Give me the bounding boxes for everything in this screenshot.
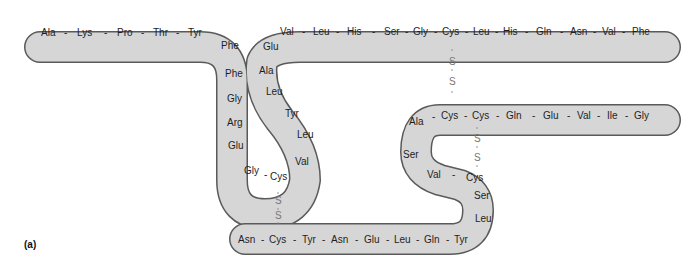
residue: Ala	[41, 27, 56, 38]
peptide-bond: -	[264, 169, 267, 180]
peptide-bond: -	[104, 27, 107, 38]
svg-text:S: S	[449, 56, 456, 67]
residue: Tyr	[454, 234, 469, 245]
peptide-bond: -	[597, 110, 600, 121]
residue: Tyr	[302, 234, 317, 245]
peptide-diagram: Ala - Lys - Pro - Thr - Tyr Phe Phe Gly …	[0, 0, 682, 269]
residue: Ala	[259, 65, 274, 76]
residue: Cys	[441, 110, 458, 121]
residue: Pro	[117, 27, 133, 38]
residue: Glu	[228, 140, 244, 151]
residue: Phe	[632, 26, 650, 37]
residue: Gly	[413, 26, 428, 37]
residue: Phe	[221, 40, 239, 51]
residue: Asn	[570, 26, 587, 37]
residue: Cys	[472, 110, 489, 121]
residue: Ile	[607, 110, 618, 121]
residue: Cys	[269, 234, 286, 245]
svg-text:S: S	[275, 195, 282, 206]
peptide-bond: -	[302, 26, 305, 37]
peptide-bond: -	[434, 26, 437, 37]
peptide-bond: -	[625, 110, 628, 121]
residue: Glu	[543, 110, 559, 121]
peptide-bond: -	[416, 234, 419, 245]
residue: Gly	[634, 110, 649, 121]
residue: Asn	[238, 234, 255, 245]
figure-label: (a)	[24, 239, 36, 250]
svg-text:S: S	[474, 152, 481, 163]
residue: Val	[280, 26, 294, 37]
residue: Leu	[473, 26, 490, 37]
residue: Asn	[331, 234, 348, 245]
peptide-bond: -	[560, 26, 563, 37]
peptide-bond: -	[322, 234, 325, 245]
residue: Gly	[227, 93, 242, 104]
residue: Tyr	[188, 27, 203, 38]
residue: Ser	[384, 26, 400, 37]
residue: Val	[602, 26, 616, 37]
residue: Ser	[403, 149, 419, 160]
residue: Val	[427, 169, 441, 180]
peptide-bond: -	[465, 26, 468, 37]
residue: Phe	[225, 68, 243, 79]
residue: Glu	[364, 234, 380, 245]
residue: Lys	[77, 27, 92, 38]
residue: Leu	[297, 129, 314, 140]
svg-text:S: S	[275, 210, 282, 221]
peptide-bond: -	[261, 234, 264, 245]
residue: Cys	[270, 171, 287, 182]
peptide-bond: -	[293, 234, 296, 245]
peptide-bond: -	[176, 27, 179, 38]
peptide-bond: -	[593, 26, 596, 37]
peptide-bond: -	[336, 26, 339, 37]
peptide-bond: -	[532, 110, 535, 121]
residue: Gln	[506, 110, 522, 121]
peptide-bond: -	[372, 26, 375, 37]
residue: Gly	[244, 165, 259, 176]
peptide-bond: -	[622, 26, 625, 37]
residue: Cys	[442, 26, 459, 37]
residue: Tyr	[285, 108, 300, 119]
svg-text:S: S	[449, 76, 456, 87]
peptide-bond: -	[141, 27, 144, 38]
residue: Gln	[424, 234, 440, 245]
peptide-bond: -	[525, 26, 528, 37]
peptide-bond: -	[446, 234, 449, 245]
residue: Val	[577, 110, 591, 121]
peptide-bond: -	[452, 169, 455, 180]
residue: Leu	[475, 213, 492, 224]
residue: Ala	[409, 116, 424, 127]
peptide-bond: -	[355, 234, 358, 245]
peptide-bond: -	[567, 110, 570, 121]
peptide-bond: -	[64, 27, 67, 38]
residue: Gln	[536, 26, 552, 37]
residue: Leu	[394, 234, 411, 245]
residue: His	[347, 26, 361, 37]
peptide-bond: -	[405, 26, 408, 37]
residue: Arg	[227, 117, 243, 128]
residue: Leu	[266, 86, 283, 97]
peptide-bond: -	[496, 110, 499, 121]
svg-text:S: S	[474, 133, 481, 144]
peptide-bond: -	[432, 111, 435, 122]
residue: Val	[295, 156, 309, 167]
residue: Leu	[313, 26, 330, 37]
disulfide-bond-3: S S	[474, 127, 481, 167]
peptide-bond: -	[495, 26, 498, 37]
residue: His	[503, 26, 517, 37]
peptide-bond: -	[464, 110, 467, 121]
residue: Thr	[153, 27, 169, 38]
residue: Ser	[474, 190, 490, 201]
disulfide-bond-1: S S	[449, 49, 456, 93]
residue: Glu	[263, 41, 279, 52]
peptide-bond: -	[386, 234, 389, 245]
residue: Cys	[466, 172, 483, 183]
